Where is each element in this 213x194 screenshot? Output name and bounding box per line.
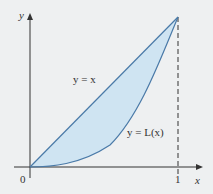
x-tick-label-1: 1 (175, 173, 181, 185)
x-axis-arrow-icon (196, 164, 203, 170)
label-y-equals-x: y = x (73, 73, 96, 85)
y-axis-label: y (18, 9, 24, 21)
origin-label: 0 (20, 173, 26, 185)
label-y-equals-L-x: y = L(x) (127, 126, 164, 139)
y-axis-arrow-icon (27, 13, 33, 20)
x-axis-label: x (194, 174, 200, 186)
lorenz-diagram: y x 0 1 y = x y = L(x) (0, 0, 213, 194)
